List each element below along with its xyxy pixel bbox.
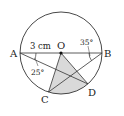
label-O: O — [57, 40, 65, 51]
radius-label: 3 cm — [30, 41, 51, 51]
angle-label-B: 35° — [80, 38, 94, 47]
label-C: C — [41, 94, 49, 105]
leader-25 — [35, 58, 38, 66]
label-B: B — [104, 48, 111, 59]
angle-label-A: 25° — [31, 68, 45, 77]
label-D: D — [88, 87, 96, 98]
label-A: A — [9, 48, 18, 59]
circle-diagram: A B O C D 3 cm 25° 35° — [0, 0, 124, 116]
center-point-O — [59, 51, 62, 54]
